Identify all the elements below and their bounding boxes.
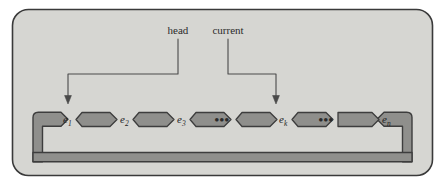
node-sub-e2: 2 [125,119,129,128]
return-path-bottom-bar [33,153,412,162]
pointer-label-current: current [212,24,243,36]
link-ellipsis1-ek [236,113,277,127]
figure-container: e1 e2 e3 ek en ••• ••• head current [0,0,445,188]
link-ellipsis2-en [338,113,379,127]
ellipsis-1: ••• [214,112,229,127]
node-sub-e1: 1 [68,119,72,128]
pointer-label-head: head [168,24,189,36]
link-e2-e3 [133,113,174,127]
link-e1-e2 [76,113,117,127]
node-sub-en: n [387,119,391,128]
ellipsis-2: ••• [318,112,333,127]
node-sub-e3: 3 [181,119,186,128]
